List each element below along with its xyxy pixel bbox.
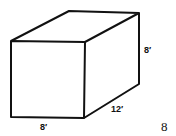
box-diagram: 8′ 12′ 8′ 8 (0, 0, 176, 136)
width-label: 8′ (40, 122, 47, 132)
prism-edges (11, 11, 139, 118)
figure-number: 8 (161, 119, 168, 134)
depth-label: 12′ (111, 104, 123, 114)
top-face (11, 11, 139, 42)
height-label: 8′ (144, 45, 151, 55)
front-face (11, 41, 85, 118)
